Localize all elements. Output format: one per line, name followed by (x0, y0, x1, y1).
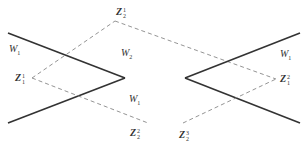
label-z2-1: Z12 (116, 7, 126, 19)
label-sub: 2 (137, 134, 140, 140)
label-sub: 1 (288, 55, 291, 61)
label-z2-2: Z22 (130, 128, 140, 140)
label-sub: 1 (22, 79, 25, 85)
label-sub: 2 (123, 13, 126, 19)
label-w1-bottom: W1 (129, 94, 140, 106)
diagram-canvas (0, 0, 307, 148)
label-w2: W2 (121, 48, 132, 60)
label-w1-right: W1 (280, 49, 291, 61)
label-base: Z (280, 73, 286, 84)
label-z2-3: Z32 (179, 130, 189, 142)
solid-line-left-lower (8, 78, 125, 123)
label-base: Z (179, 129, 185, 140)
label-sub: 1 (287, 80, 290, 86)
label-z1-2: Z21 (280, 74, 290, 86)
label-sub: 2 (129, 54, 132, 60)
dashed-line-z21-to-z12 (115, 21, 276, 79)
label-base: Z (15, 72, 21, 83)
label-base: Z (116, 6, 122, 17)
label-sub: 1 (137, 100, 140, 106)
dashed-line-z23-to-z12 (183, 79, 276, 123)
label-sub: 2 (186, 136, 189, 142)
label-sub: 1 (17, 50, 20, 56)
solid-line-left-upper (8, 33, 125, 78)
label-w1-top: W1 (9, 44, 20, 56)
label-z1-1: Z11 (15, 73, 25, 85)
label-base: Z (130, 127, 136, 138)
